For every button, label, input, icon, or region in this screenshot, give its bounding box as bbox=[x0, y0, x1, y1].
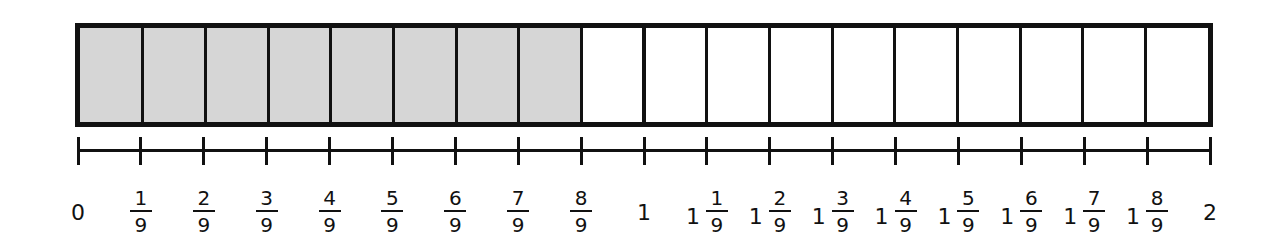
tick-mark bbox=[580, 137, 583, 165]
denominator: 9 bbox=[773, 212, 786, 235]
tick-label: 1 bbox=[637, 188, 651, 224]
fraction: 39 bbox=[832, 188, 854, 235]
numerator: 1 bbox=[133, 188, 150, 210]
tick-mark bbox=[705, 137, 708, 165]
fraction: 19 bbox=[706, 188, 728, 235]
whole-number: 1 bbox=[749, 206, 763, 228]
numerator: 3 bbox=[258, 188, 275, 210]
numerator: 4 bbox=[897, 188, 914, 210]
fraction: 89 bbox=[1146, 188, 1168, 235]
whole-number: 1 bbox=[1126, 206, 1140, 228]
numerator: 5 bbox=[960, 188, 977, 210]
tick-label: 19 bbox=[130, 188, 152, 235]
whole-number: 1 bbox=[875, 206, 889, 228]
fraction: 79 bbox=[507, 188, 529, 235]
tick-mark bbox=[957, 137, 960, 165]
tick-mark bbox=[391, 137, 394, 165]
tick-label: 119 bbox=[686, 188, 728, 235]
numerator: 1 bbox=[709, 188, 726, 210]
denominator: 9 bbox=[512, 212, 525, 235]
numerator: 6 bbox=[447, 188, 464, 210]
fraction: 29 bbox=[193, 188, 215, 235]
tick-mark bbox=[1146, 137, 1149, 165]
tick-label: 39 bbox=[256, 188, 278, 235]
numerator: 2 bbox=[771, 188, 788, 210]
whole-number: 1 bbox=[812, 206, 826, 228]
number-line: 0192939495969798911191291391491591691791… bbox=[0, 0, 1280, 252]
tick-label: 69 bbox=[444, 188, 466, 235]
tick-mark bbox=[894, 137, 897, 165]
tick-mark bbox=[202, 137, 205, 165]
tick-label: 189 bbox=[1126, 188, 1168, 235]
tick-mark bbox=[1083, 137, 1086, 165]
tick-mark bbox=[454, 137, 457, 165]
tick-label: 2 bbox=[1203, 188, 1217, 224]
tick-label: 129 bbox=[749, 188, 791, 235]
tick-mark bbox=[77, 137, 80, 165]
numerator: 8 bbox=[573, 188, 590, 210]
denominator: 9 bbox=[836, 212, 849, 235]
tick-label: 29 bbox=[193, 188, 215, 235]
fraction: 49 bbox=[895, 188, 917, 235]
fraction: 19 bbox=[130, 188, 152, 235]
tick-label: 169 bbox=[1000, 188, 1042, 235]
tick-mark bbox=[768, 137, 771, 165]
fraction: 89 bbox=[570, 188, 592, 235]
tick-mark bbox=[831, 137, 834, 165]
tick-label: 49 bbox=[319, 188, 341, 235]
numerator: 4 bbox=[321, 188, 338, 210]
tick-mark bbox=[1209, 137, 1212, 165]
numerator: 3 bbox=[834, 188, 851, 210]
numerator: 7 bbox=[1086, 188, 1103, 210]
denominator: 9 bbox=[386, 212, 399, 235]
tick-label: 79 bbox=[507, 188, 529, 235]
tick-label: 89 bbox=[570, 188, 592, 235]
fraction: 39 bbox=[256, 188, 278, 235]
numerator: 6 bbox=[1023, 188, 1040, 210]
tick-label: 0 bbox=[71, 188, 85, 224]
whole-number: 1 bbox=[637, 202, 651, 224]
denominator: 9 bbox=[962, 212, 975, 235]
tick-mark bbox=[517, 137, 520, 165]
whole-number: 1 bbox=[1063, 206, 1077, 228]
denominator: 9 bbox=[135, 212, 148, 235]
denominator: 9 bbox=[1151, 212, 1164, 235]
denominator: 9 bbox=[575, 212, 588, 235]
tick-mark bbox=[1020, 137, 1023, 165]
tick-label: 159 bbox=[937, 188, 979, 235]
denominator: 9 bbox=[1088, 212, 1101, 235]
fraction: 59 bbox=[381, 188, 403, 235]
numerator: 7 bbox=[510, 188, 527, 210]
whole-number: 1 bbox=[937, 206, 951, 228]
denominator: 9 bbox=[899, 212, 912, 235]
fraction: 49 bbox=[319, 188, 341, 235]
fraction: 29 bbox=[769, 188, 791, 235]
fraction: 69 bbox=[444, 188, 466, 235]
numerator: 5 bbox=[384, 188, 401, 210]
tick-mark bbox=[265, 137, 268, 165]
numerator: 2 bbox=[195, 188, 212, 210]
denominator: 9 bbox=[1025, 212, 1038, 235]
whole-number: 2 bbox=[1203, 202, 1217, 224]
denominator: 9 bbox=[323, 212, 336, 235]
denominator: 9 bbox=[449, 212, 462, 235]
tick-mark bbox=[139, 137, 142, 165]
denominator: 9 bbox=[197, 212, 210, 235]
denominator: 9 bbox=[711, 212, 724, 235]
tick-label: 179 bbox=[1063, 188, 1105, 235]
numerator: 8 bbox=[1149, 188, 1166, 210]
fraction: 79 bbox=[1083, 188, 1105, 235]
tick-mark bbox=[643, 137, 646, 165]
tick-label: 149 bbox=[875, 188, 917, 235]
fraction: 69 bbox=[1020, 188, 1042, 235]
tick-label: 139 bbox=[812, 188, 854, 235]
whole-number: 1 bbox=[1000, 206, 1014, 228]
fraction: 59 bbox=[957, 188, 979, 235]
tick-mark bbox=[328, 137, 331, 165]
denominator: 9 bbox=[260, 212, 273, 235]
tick-label: 59 bbox=[381, 188, 403, 235]
whole-number: 0 bbox=[71, 202, 85, 224]
whole-number: 1 bbox=[686, 206, 700, 228]
